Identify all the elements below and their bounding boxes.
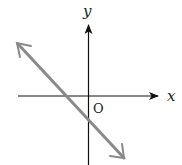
y-axis-label: y bbox=[82, 2, 92, 20]
x-axis-label: x bbox=[167, 87, 176, 105]
origin-label: O bbox=[93, 101, 104, 116]
graph-line bbox=[17, 43, 124, 158]
coordinate-plane: y x O bbox=[0, 0, 182, 165]
